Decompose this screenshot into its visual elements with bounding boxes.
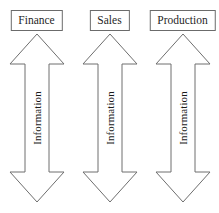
double-arrow-icon — [6, 33, 68, 203]
double-arrow-icon — [152, 33, 214, 203]
double-arrow-finance[interactable]: Information — [6, 33, 68, 203]
department-box-finance[interactable]: Finance — [10, 10, 62, 31]
diagram-column-finance: Finance Information — [0, 0, 73, 213]
diagram-column-production: Production Information — [146, 0, 219, 213]
double-arrow-sales[interactable]: Information — [79, 33, 141, 203]
information-flow-diagram: Finance Information Sales Information Pr… — [0, 0, 219, 213]
double-arrow-icon — [79, 33, 141, 203]
diagram-column-sales: Sales Information — [73, 0, 146, 213]
department-box-sales[interactable]: Sales — [89, 10, 129, 31]
department-box-production[interactable]: Production — [149, 10, 215, 31]
double-arrow-production[interactable]: Information — [152, 33, 214, 203]
